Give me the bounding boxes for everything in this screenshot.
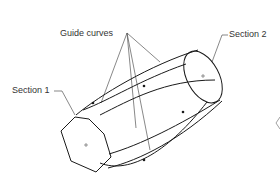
section-1-leader: [54, 91, 75, 115]
guide-curves-label: Guide curves: [60, 29, 113, 38]
section-2-leader: [212, 35, 228, 62]
section-2-label: Section 2: [229, 30, 267, 39]
loft-diagram: Guide curves Section 2 Section 1: [0, 0, 280, 178]
partial-shape-edge: [276, 117, 280, 129]
section-2-center-mark: [201, 74, 205, 78]
section-1-center-mark: [84, 143, 88, 147]
guide-curves: [76, 50, 222, 168]
guide-curve-points: [92, 85, 185, 162]
section-1-label: Section 1: [12, 86, 50, 95]
